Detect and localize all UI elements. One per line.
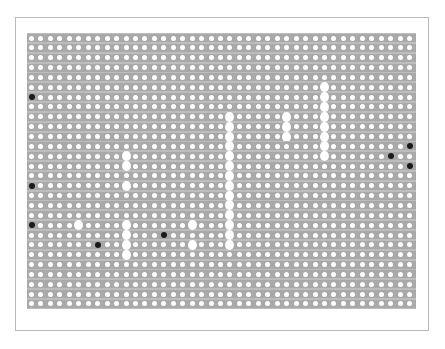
hole-dot (171, 85, 176, 90)
hole-dot (246, 124, 251, 129)
hole-dot (407, 65, 412, 70)
hole-dot (95, 104, 100, 109)
hole-dot (265, 252, 270, 257)
hole-dot (67, 282, 72, 287)
hole-dot (388, 223, 393, 228)
hole-dot (218, 55, 223, 60)
hole-dot (218, 104, 223, 109)
hole-dot (398, 164, 403, 169)
hole-dot (133, 193, 138, 198)
hole-dot (142, 144, 147, 149)
hole-dot (199, 282, 204, 287)
hole-dot (303, 203, 308, 208)
hole-dot (341, 104, 346, 109)
hole-dot (152, 233, 157, 238)
hole-dot (369, 45, 374, 50)
hole-dot (95, 262, 100, 267)
hole-dot (407, 95, 412, 100)
hole-dot (180, 154, 185, 159)
hole-dot (180, 252, 185, 257)
hole-dot (303, 95, 308, 100)
hole-dot (350, 104, 355, 109)
hole-dot (48, 173, 53, 178)
hole-dot (86, 292, 91, 297)
hole-dot (227, 282, 232, 287)
hole-dot (275, 144, 280, 149)
hole-dot (256, 282, 261, 287)
hole-dot (190, 36, 195, 41)
hole-dot (388, 203, 393, 208)
hole-dot (29, 173, 34, 178)
hole-dot (303, 213, 308, 218)
hole-dot (48, 183, 53, 188)
hole-dot (38, 301, 43, 306)
hole-dot (48, 75, 53, 80)
hole-dot (29, 85, 34, 90)
hole-dot (331, 233, 336, 238)
white-marker-dot (122, 220, 131, 230)
hole-dot (407, 233, 412, 238)
hole-dot (180, 223, 185, 228)
hole-dot (331, 144, 336, 149)
hole-dot (152, 75, 157, 80)
hole-dot (398, 252, 403, 257)
hole-dot (199, 242, 204, 247)
hole-dot (152, 134, 157, 139)
hole-dot (350, 95, 355, 100)
hole-dot (199, 301, 204, 306)
hole-dot (142, 183, 147, 188)
hole-dot (114, 272, 119, 277)
hole-dot (284, 154, 289, 159)
hole-dot (190, 301, 195, 306)
hole-dot (218, 114, 223, 119)
hole-dot (95, 203, 100, 208)
hole-dot (29, 104, 34, 109)
hole-dot (369, 203, 374, 208)
hole-dot (407, 223, 412, 228)
hole-dot (29, 292, 34, 297)
hole-dot (48, 301, 53, 306)
hole-dot (407, 173, 412, 178)
hole-dot (246, 55, 251, 60)
hole-dot (218, 144, 223, 149)
hole-dot (246, 144, 251, 149)
hole-dot (284, 272, 289, 277)
hole-dot (190, 104, 195, 109)
hole-dot (133, 134, 138, 139)
hole-dot (294, 75, 299, 80)
hole-dot (256, 104, 261, 109)
hole-dot (142, 114, 147, 119)
hole-dot (161, 114, 166, 119)
hole-dot (190, 252, 195, 257)
hole-dot (38, 292, 43, 297)
hole-dot (256, 154, 261, 159)
hole-dot (95, 233, 100, 238)
hole-dot (407, 183, 412, 188)
white-marker-dot (225, 230, 234, 240)
hole-dot (67, 233, 72, 238)
hole-dot (227, 252, 232, 257)
hole-dot (256, 75, 261, 80)
hole-dot (265, 262, 270, 267)
hole-dot (313, 95, 318, 100)
hole-dot (29, 272, 34, 277)
hole-dot (246, 242, 251, 247)
hole-dot (379, 173, 384, 178)
hole-dot (142, 75, 147, 80)
hole-dot (105, 144, 110, 149)
hole-dot (48, 36, 53, 41)
hole-dot (388, 242, 393, 247)
hole-dot (218, 65, 223, 70)
hole-dot (152, 213, 157, 218)
hole-dot (275, 292, 280, 297)
hole-dot (284, 252, 289, 257)
hole-dot (360, 233, 365, 238)
hole-dot (105, 272, 110, 277)
hole-dot (76, 134, 81, 139)
hole-dot (199, 154, 204, 159)
hole-dot (152, 154, 157, 159)
hole-dot (313, 301, 318, 306)
hole-dot (350, 75, 355, 80)
hole-dot (388, 173, 393, 178)
hole-dot (331, 65, 336, 70)
